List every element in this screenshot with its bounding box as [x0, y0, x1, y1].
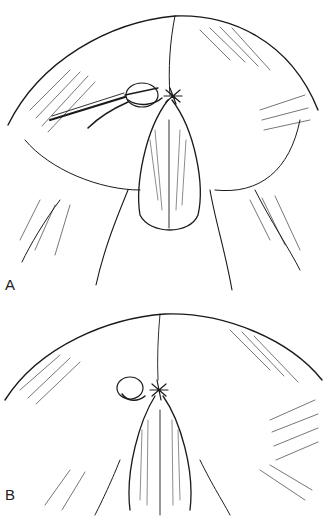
figure-panel-a: A	[0, 0, 328, 300]
illustration-a	[0, 0, 328, 300]
panel-label-b: B	[5, 486, 15, 503]
illustration-b	[0, 300, 328, 519]
figure-panel-b: B	[0, 300, 328, 519]
panel-label-a: A	[5, 276, 15, 293]
